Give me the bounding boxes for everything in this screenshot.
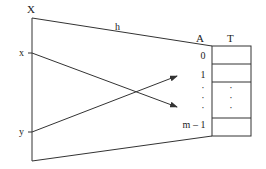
key-x-label: x bbox=[19, 47, 24, 58]
universe-label: X bbox=[27, 3, 35, 15]
hash-diagram: · · · X x y h A T 0 1 · · · m – 1 bbox=[0, 0, 266, 169]
table-t-label: T bbox=[227, 32, 234, 44]
arrow-x-mapping bbox=[32, 53, 177, 107]
array-a-label: A bbox=[196, 32, 204, 44]
diagram-canvas: · · · X x y h A T 0 1 · · · m – 1 bbox=[0, 0, 266, 169]
funnel-top-line bbox=[32, 18, 212, 46]
key-y-label: y bbox=[19, 126, 24, 137]
funnel-bottom-line bbox=[32, 136, 212, 161]
array-index-last: m – 1 bbox=[183, 119, 206, 130]
arrow-y-mapping bbox=[32, 76, 177, 132]
array-index-1: 1 bbox=[201, 69, 206, 80]
table-ellipsis-dot: · bbox=[229, 102, 232, 113]
hash-function-label: h bbox=[115, 21, 120, 32]
array-index-0: 0 bbox=[201, 50, 206, 61]
array-index-dot: · bbox=[201, 102, 204, 113]
